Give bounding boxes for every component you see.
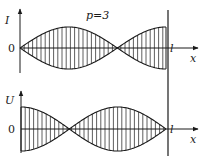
- standing-wave-diagram: p=3 I 0 l x U 0 l x: [0, 0, 207, 161]
- voltage-axis-label: U: [5, 94, 15, 107]
- voltage-x-label: x: [190, 133, 197, 146]
- current-length-label: l: [170, 42, 174, 55]
- current-x-label: x: [190, 52, 197, 65]
- parameter-label: p=3: [86, 9, 109, 22]
- current-origin-label: 0: [8, 42, 15, 55]
- current-axis-label: I: [4, 14, 10, 27]
- voltage-origin-label: 0: [8, 123, 15, 136]
- voltage-length-label: l: [170, 123, 174, 136]
- voltage-plot: U 0 l x: [5, 91, 198, 153]
